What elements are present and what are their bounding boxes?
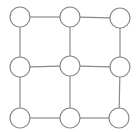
graph-node xyxy=(60,7,80,27)
graph-node xyxy=(60,108,80,128)
grid-graph-diagram xyxy=(0,0,137,132)
graph-node xyxy=(60,56,80,76)
graph-node xyxy=(109,108,129,128)
graph-edge xyxy=(80,17,110,18)
graph-node xyxy=(10,108,30,128)
graph-node xyxy=(110,57,130,77)
graph-nodes xyxy=(10,7,130,128)
graph-node xyxy=(10,57,30,77)
graph-edge xyxy=(30,66,60,67)
graph-node xyxy=(110,8,130,28)
graph-edge xyxy=(80,66,110,67)
graph-node xyxy=(10,7,30,27)
graph-edge xyxy=(119,77,120,108)
